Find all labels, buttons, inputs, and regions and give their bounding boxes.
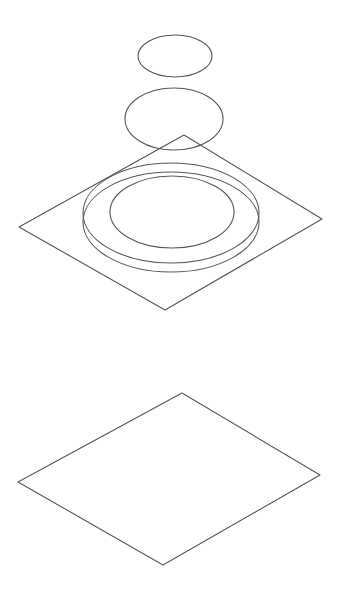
isometric-diagram: [0, 0, 352, 592]
diagram-canvas: [0, 0, 352, 592]
lower-plate: [18, 393, 320, 565]
upper-plate: [19, 135, 322, 310]
ring-outer-bottom: [83, 172, 259, 272]
ring-inner: [110, 176, 234, 248]
top-disc: [138, 35, 212, 77]
